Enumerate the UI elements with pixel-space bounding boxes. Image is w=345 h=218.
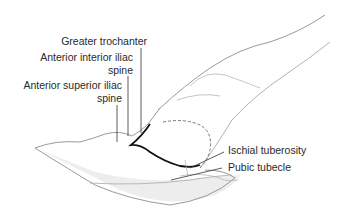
patella-outline xyxy=(190,74,260,88)
label-greater-trochanter: Greater trochanter xyxy=(55,35,147,47)
label-ischial-tuberosity: Ischial tuberosity xyxy=(228,144,306,156)
ischial-detail xyxy=(185,160,188,176)
label-pubic-tubercle: Pubic tubecle xyxy=(228,161,291,173)
label-anterior-superior-iliac-spine-line2: spine xyxy=(0,92,122,104)
hip-illustration xyxy=(0,0,345,218)
anatomy-diagram: Greater trochanter Anterior interior ili… xyxy=(0,0,345,218)
thigh-band xyxy=(177,95,220,100)
femoral-head-dashed xyxy=(163,121,211,168)
leader-ischial-tuberosity xyxy=(190,152,224,168)
thigh-upper-edge xyxy=(158,15,325,110)
label-anterior-superior-iliac-spine-line1: Anterior superior iliac xyxy=(0,79,122,91)
label-anterior-inferior-iliac-spine-line2: spine xyxy=(20,64,133,76)
label-anterior-inferior-iliac-spine-line1: Anterior interior iliac xyxy=(20,51,133,63)
